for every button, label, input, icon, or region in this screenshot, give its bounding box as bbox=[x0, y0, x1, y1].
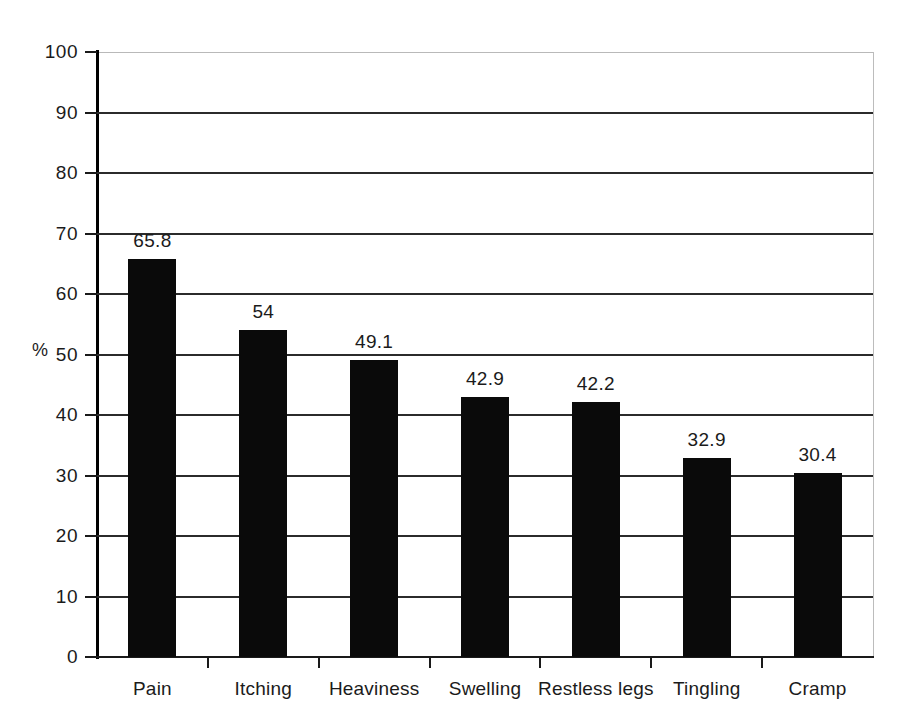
y-axis-tick-label: 40 bbox=[42, 405, 78, 424]
y-axis-tick-label-wrap: 30 bbox=[24, 466, 78, 485]
plot-frame-top-border bbox=[97, 52, 874, 53]
bar bbox=[461, 397, 509, 657]
gridline bbox=[97, 354, 873, 356]
bar-value-label: 30.4 bbox=[768, 445, 868, 464]
y-axis-tick-label: 100 bbox=[42, 42, 78, 61]
y-axis-tick bbox=[85, 596, 97, 598]
y-axis-tick bbox=[85, 293, 97, 295]
bar-value-label: 42.2 bbox=[546, 374, 646, 393]
y-axis-tick-label: 70 bbox=[42, 224, 78, 243]
bar-value-label: 49.1 bbox=[324, 332, 424, 351]
y-axis-tick-label-wrap: 10 bbox=[24, 587, 78, 606]
y-axis-tick-label-wrap: 100 bbox=[24, 42, 78, 61]
bar bbox=[683, 458, 731, 657]
y-axis-tick-label: 10 bbox=[42, 587, 78, 606]
x-axis-tick bbox=[207, 657, 209, 668]
y-axis-tick bbox=[85, 51, 97, 53]
y-axis-tick bbox=[85, 354, 97, 356]
y-axis-tick-label-wrap: 80 bbox=[24, 163, 78, 182]
y-axis-tick bbox=[85, 656, 97, 658]
y-axis-tick bbox=[85, 112, 97, 114]
bar-value-label: 65.8 bbox=[102, 231, 202, 250]
y-axis-tick-label: 30 bbox=[42, 466, 78, 485]
x-axis-tick bbox=[539, 657, 541, 668]
y-axis-tick bbox=[85, 172, 97, 174]
x-axis-tick bbox=[650, 657, 652, 668]
y-axis-tick bbox=[85, 475, 97, 477]
y-axis-tick bbox=[85, 535, 97, 537]
bar bbox=[794, 473, 842, 657]
y-axis-tick-label: 60 bbox=[42, 284, 78, 303]
x-axis-category-label: Cramp bbox=[738, 678, 898, 700]
x-axis-tick bbox=[761, 657, 763, 668]
bar bbox=[350, 360, 398, 657]
gridline bbox=[97, 112, 873, 114]
y-axis-tick bbox=[85, 233, 97, 235]
bar-value-label: 32.9 bbox=[657, 430, 757, 449]
plot-frame-right-border bbox=[873, 52, 874, 658]
bar-value-label: 42.9 bbox=[435, 369, 535, 388]
bar bbox=[128, 259, 176, 657]
x-axis-tick bbox=[318, 657, 320, 668]
y-axis-tick-label-wrap: 40 bbox=[24, 405, 78, 424]
gridline bbox=[97, 233, 873, 235]
y-axis-tick-label: 80 bbox=[42, 163, 78, 182]
bar bbox=[572, 402, 620, 657]
y-axis-tick-label: 20 bbox=[42, 526, 78, 545]
bar-value-label: 54 bbox=[213, 302, 313, 321]
y-axis-tick-label-wrap: 70 bbox=[24, 224, 78, 243]
y-axis-tick-label-wrap: 90 bbox=[24, 103, 78, 122]
y-axis-tick-label-wrap: 0 bbox=[24, 647, 78, 666]
x-axis-tick bbox=[429, 657, 431, 668]
gridline bbox=[97, 293, 873, 295]
bar-chart: 0102030405060708090100 65.85449.142.942.… bbox=[0, 0, 909, 728]
gridline bbox=[97, 172, 873, 174]
y-axis-tick-label-wrap: 60 bbox=[24, 284, 78, 303]
y-axis-tick-label-wrap: 20 bbox=[24, 526, 78, 545]
y-axis-title: % bbox=[32, 341, 48, 359]
y-axis-tick bbox=[85, 414, 97, 416]
y-axis-tick-label: 0 bbox=[42, 647, 78, 666]
bar bbox=[239, 330, 287, 657]
y-axis-tick-label: 90 bbox=[42, 103, 78, 122]
